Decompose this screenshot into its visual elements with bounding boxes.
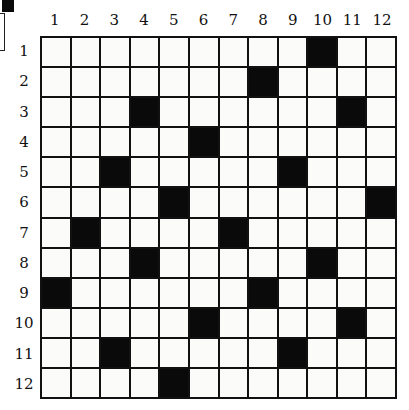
white-cell[interactable] [220,128,248,156]
white-cell[interactable] [338,158,366,186]
white-cell[interactable] [72,68,100,96]
white-cell[interactable] [72,158,100,186]
white-cell[interactable] [249,309,277,337]
white-cell[interactable] [338,369,366,397]
white-cell[interactable] [101,38,129,66]
white-cell[interactable] [190,188,218,216]
white-cell[interactable] [101,219,129,247]
white-cell[interactable] [160,158,188,186]
white-cell[interactable] [72,128,100,156]
white-cell[interactable] [160,339,188,367]
white-cell[interactable] [72,188,100,216]
white-cell[interactable] [338,188,366,216]
white-cell[interactable] [131,128,159,156]
white-cell[interactable] [308,369,336,397]
white-cell[interactable] [190,249,218,277]
white-cell[interactable] [308,98,336,126]
white-cell[interactable] [279,68,307,96]
white-cell[interactable] [42,158,70,186]
white-cell[interactable] [101,309,129,337]
white-cell[interactable] [367,339,395,367]
white-cell[interactable] [101,369,129,397]
white-cell[interactable] [249,339,277,367]
white-cell[interactable] [131,219,159,247]
white-cell[interactable] [72,98,100,126]
white-cell[interactable] [338,279,366,307]
white-cell[interactable] [220,38,248,66]
white-cell[interactable] [220,249,248,277]
white-cell[interactable] [72,339,100,367]
white-cell[interactable] [279,309,307,337]
white-cell[interactable] [308,219,336,247]
white-cell[interactable] [160,279,188,307]
white-cell[interactable] [249,128,277,156]
white-cell[interactable] [160,98,188,126]
white-cell[interactable] [249,249,277,277]
white-cell[interactable] [42,309,70,337]
white-cell[interactable] [42,128,70,156]
white-cell[interactable] [338,128,366,156]
white-cell[interactable] [367,279,395,307]
white-cell[interactable] [279,279,307,307]
white-cell[interactable] [220,68,248,96]
white-cell[interactable] [190,339,218,367]
white-cell[interactable] [220,369,248,397]
white-cell[interactable] [190,68,218,96]
white-cell[interactable] [131,309,159,337]
white-cell[interactable] [338,339,366,367]
white-cell[interactable] [367,158,395,186]
white-cell[interactable] [42,98,70,126]
white-cell[interactable] [220,279,248,307]
white-cell[interactable] [131,38,159,66]
white-cell[interactable] [308,279,336,307]
white-cell[interactable] [160,249,188,277]
white-cell[interactable] [338,38,366,66]
white-cell[interactable] [101,128,129,156]
white-cell[interactable] [367,38,395,66]
white-cell[interactable] [42,339,70,367]
white-cell[interactable] [308,68,336,96]
white-cell[interactable] [42,369,70,397]
white-cell[interactable] [338,68,366,96]
white-cell[interactable] [101,279,129,307]
white-cell[interactable] [190,158,218,186]
white-cell[interactable] [160,309,188,337]
white-cell[interactable] [367,98,395,126]
white-cell[interactable] [367,369,395,397]
white-cell[interactable] [131,188,159,216]
white-cell[interactable] [101,98,129,126]
white-cell[interactable] [190,369,218,397]
white-cell[interactable] [160,38,188,66]
white-cell[interactable] [131,158,159,186]
white-cell[interactable] [131,68,159,96]
white-cell[interactable] [72,279,100,307]
white-cell[interactable] [338,249,366,277]
white-cell[interactable] [249,188,277,216]
white-cell[interactable] [190,38,218,66]
white-cell[interactable] [101,188,129,216]
white-cell[interactable] [131,369,159,397]
white-cell[interactable] [131,279,159,307]
white-cell[interactable] [72,369,100,397]
white-cell[interactable] [190,279,218,307]
white-cell[interactable] [72,309,100,337]
white-cell[interactable] [279,249,307,277]
white-cell[interactable] [338,219,366,247]
white-cell[interactable] [367,68,395,96]
white-cell[interactable] [42,219,70,247]
white-cell[interactable] [308,339,336,367]
white-cell[interactable] [220,309,248,337]
white-cell[interactable] [131,339,159,367]
white-cell[interactable] [220,98,248,126]
white-cell[interactable] [367,128,395,156]
white-cell[interactable] [279,219,307,247]
white-cell[interactable] [101,68,129,96]
white-cell[interactable] [279,369,307,397]
white-cell[interactable] [308,309,336,337]
white-cell[interactable] [249,219,277,247]
white-cell[interactable] [220,339,248,367]
white-cell[interactable] [72,38,100,66]
white-cell[interactable] [279,188,307,216]
white-cell[interactable] [279,128,307,156]
white-cell[interactable] [279,38,307,66]
